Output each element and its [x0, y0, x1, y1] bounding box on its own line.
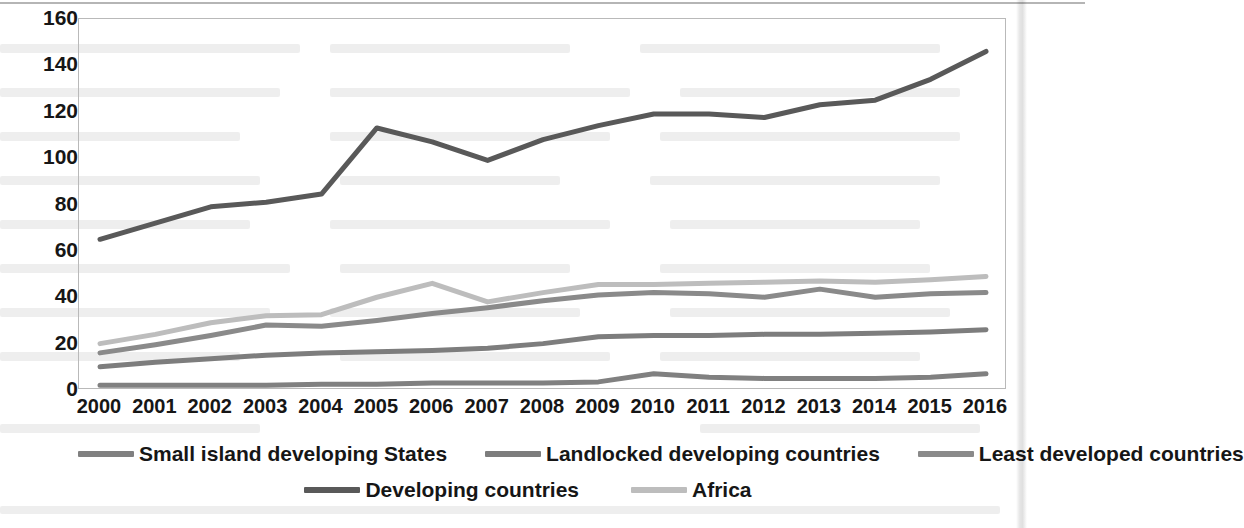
plot-area — [78, 18, 1006, 389]
x-axis-tick-label: 2014 — [852, 394, 897, 418]
series-lines — [79, 19, 1007, 390]
y-axis-tick-label: 20 — [18, 332, 78, 353]
series-line — [100, 330, 986, 367]
legend-swatch-icon — [631, 487, 687, 493]
series-line — [100, 374, 986, 386]
x-axis-tick-label: 2000 — [77, 394, 122, 418]
y-axis-tick-label: 80 — [18, 193, 78, 214]
legend-item-label: Small island developing States — [139, 443, 447, 465]
x-axis-tick-label: 2011 — [686, 394, 729, 418]
legend-item[interactable]: Small island developing States — [78, 443, 447, 465]
y-axis-tick-label: 0 — [18, 378, 78, 399]
legend-item[interactable]: Africa — [631, 479, 752, 501]
x-axis-tick-label: 2001 — [132, 394, 177, 418]
legend-swatch-icon — [918, 451, 974, 457]
legend-swatch-icon — [485, 451, 541, 457]
x-axis: 2000200120022003200420052006200720082009… — [78, 394, 1006, 422]
legend-swatch-icon — [78, 451, 134, 457]
legend-swatch-icon — [304, 487, 360, 493]
legend-item[interactable]: Developing countries — [304, 479, 579, 501]
x-axis-tick-label: 2002 — [188, 394, 233, 418]
legend-item-label: Africa — [692, 479, 752, 501]
legend-item-label: Developing countries — [365, 479, 579, 501]
y-axis-tick-label: 40 — [18, 285, 78, 306]
x-axis-tick-label: 2010 — [631, 394, 676, 418]
x-axis-tick-label: 2007 — [464, 394, 509, 418]
y-axis-tick-label: 120 — [18, 100, 78, 121]
x-axis-tick-label: 2016 — [963, 394, 1008, 418]
legend-row-2: Developing countriesAfrica — [78, 472, 1038, 508]
x-axis-tick-label: 2004 — [298, 394, 343, 418]
y-axis-tick-label: 100 — [18, 146, 78, 167]
x-axis-tick-label: 2013 — [797, 394, 842, 418]
legend-item-label: Landlocked developing countries — [546, 443, 880, 465]
series-line — [100, 51, 986, 239]
x-axis-tick-label: 2009 — [575, 394, 620, 418]
x-axis-tick-label: 2015 — [907, 394, 952, 418]
legend-item-label: Least developed countries — [979, 443, 1244, 465]
y-axis-tick-label: 140 — [18, 53, 78, 74]
chart-legend: Small island developing StatesLandlocked… — [78, 436, 1038, 508]
x-axis-tick-label: 2003 — [243, 394, 288, 418]
y-axis-tick-label: 160 — [18, 7, 78, 28]
x-axis-tick-label: 2005 — [354, 394, 399, 418]
legend-item[interactable]: Least developed countries — [918, 443, 1244, 465]
legend-item[interactable]: Landlocked developing countries — [485, 443, 880, 465]
y-axis-tick-label: 60 — [18, 239, 78, 260]
legend-row-1: Small island developing StatesLandlocked… — [78, 436, 1038, 472]
x-axis-tick-label: 2008 — [520, 394, 565, 418]
x-axis-tick-label: 2012 — [741, 394, 786, 418]
x-axis-tick-label: 2006 — [409, 394, 454, 418]
